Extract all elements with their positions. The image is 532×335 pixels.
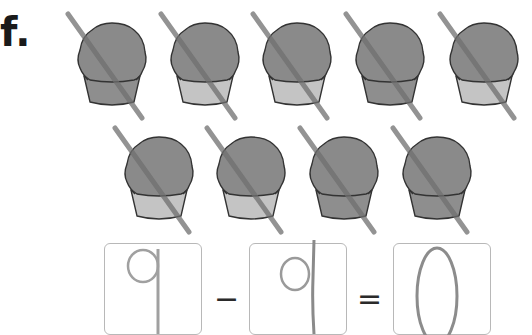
minus-sign: −: [214, 284, 239, 314]
cupcake: [121, 134, 197, 236]
cupcake-icon: [74, 20, 150, 122]
cupcake-icon: [399, 134, 475, 236]
cupcake: [399, 134, 475, 236]
cupcake-icon: [167, 20, 243, 122]
cupcake-icon: [352, 20, 428, 122]
cupcake: [167, 20, 243, 122]
cupcake: [259, 20, 335, 122]
handwritten-zero-icon: [394, 244, 490, 334]
handwritten-nine-icon: [105, 244, 201, 334]
cupcake-icon: [213, 134, 289, 236]
handwritten-nine-icon: [250, 244, 346, 334]
cupcake-icon: [121, 134, 197, 236]
cupcake: [446, 20, 522, 122]
answer-box-result[interactable]: 0: [393, 243, 491, 335]
cupcake-icon: [306, 134, 382, 236]
exercise-label: f.: [0, 8, 30, 56]
cupcake: [74, 20, 150, 122]
answer-box-minuend[interactable]: 9: [104, 243, 202, 335]
cupcake-icon: [259, 20, 335, 122]
cupcake: [352, 20, 428, 122]
cupcake: [213, 134, 289, 236]
cupcake: [306, 134, 382, 236]
cupcake-icon: [446, 20, 522, 122]
equals-sign: =: [357, 284, 382, 314]
answer-box-subtrahend[interactable]: 9: [249, 243, 347, 335]
